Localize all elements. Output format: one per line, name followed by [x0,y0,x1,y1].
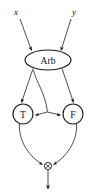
node-t-label: T [20,110,26,120]
edge-arb-branch-spine [34,70,48,112]
edge-arb-to-t [22,69,34,103]
edge-f-to-merge [54,124,77,165]
edge-arb-branch-to-t [36,112,48,115]
node-f-label: F [70,110,75,120]
edge-y-to-arb [61,19,71,51]
edge-arb-to-f [62,69,74,103]
input-label-y: y [71,7,76,17]
node-arb-label: Arb [41,56,56,66]
diagram-svg: Arb T F x y [0,0,96,196]
edge-t-to-merge [19,124,42,165]
edge-x-to-arb [20,19,32,51]
edge-arb-branch-to-f [48,112,61,115]
input-label-x: x [13,7,18,17]
diagram-canvas: Arb T F x y [0,0,96,196]
